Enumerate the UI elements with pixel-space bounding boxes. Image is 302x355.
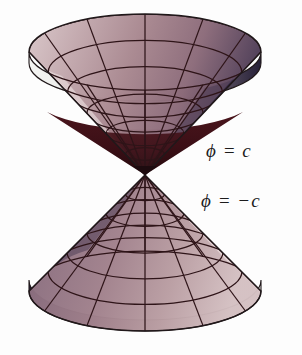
label-phi-equals-c: ϕ = c — [206, 141, 252, 160]
figure-container: ϕ = c ϕ = −c — [0, 0, 302, 355]
label-phi-equals-minus-c: ϕ = −c — [201, 191, 261, 210]
double-cone-diagram — [0, 0, 302, 355]
